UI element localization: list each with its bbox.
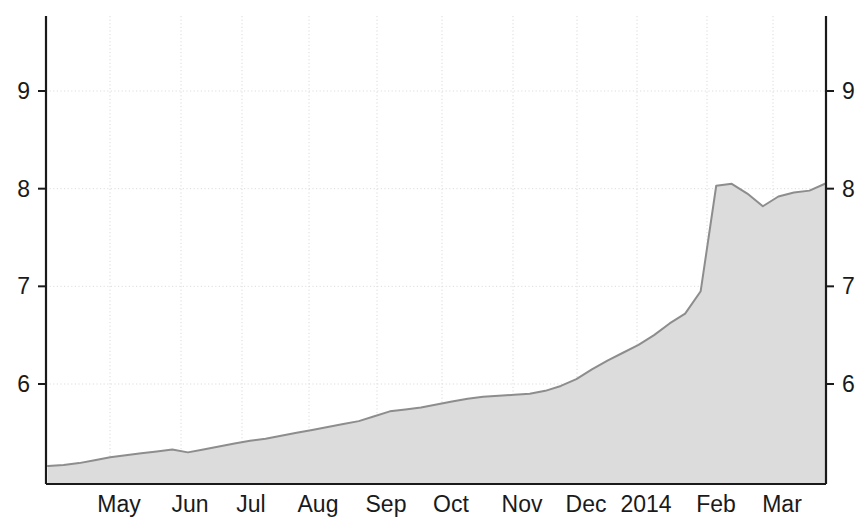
x-axis-label: May	[97, 491, 141, 517]
y-axis-label-right: 7	[842, 273, 855, 299]
chart-container: 9876 9876 MayJunJulAugSepOctNovDec2014Fe…	[0, 0, 868, 530]
y-axis-label-right: 6	[842, 371, 855, 397]
series-area-fill	[48, 184, 825, 484]
y-axis-label-left: 8	[17, 176, 30, 202]
x-axis-label: Sep	[366, 491, 407, 517]
x-axis-label: Nov	[502, 491, 543, 517]
x-axis-label: Dec	[566, 491, 607, 517]
left-axis-ticks	[38, 91, 46, 384]
x-axis-label: Mar	[762, 491, 802, 517]
x-axis-label: Jul	[236, 491, 265, 517]
area-chart: 9876 9876 MayJunJulAugSepOctNovDec2014Fe…	[0, 0, 868, 530]
left-axis-tick-labels: 9876	[17, 78, 30, 397]
x-axis-tick-labels: MayJunJulAugSepOctNovDec2014FebMar	[97, 491, 802, 517]
x-axis-label: Oct	[433, 491, 469, 517]
right-axis-ticks	[826, 91, 834, 384]
y-axis-label-left: 6	[17, 371, 30, 397]
y-axis-label-right: 9	[842, 78, 855, 104]
right-axis-tick-labels: 9876	[842, 78, 855, 397]
x-axis-label: Jun	[171, 491, 208, 517]
y-axis-label-right: 8	[842, 176, 855, 202]
x-axis-label: Feb	[696, 491, 736, 517]
y-axis-label-left: 9	[17, 78, 30, 104]
x-axis-label: 2014	[620, 491, 671, 517]
x-axis-label: Aug	[298, 491, 339, 517]
y-axis-label-left: 7	[17, 273, 30, 299]
